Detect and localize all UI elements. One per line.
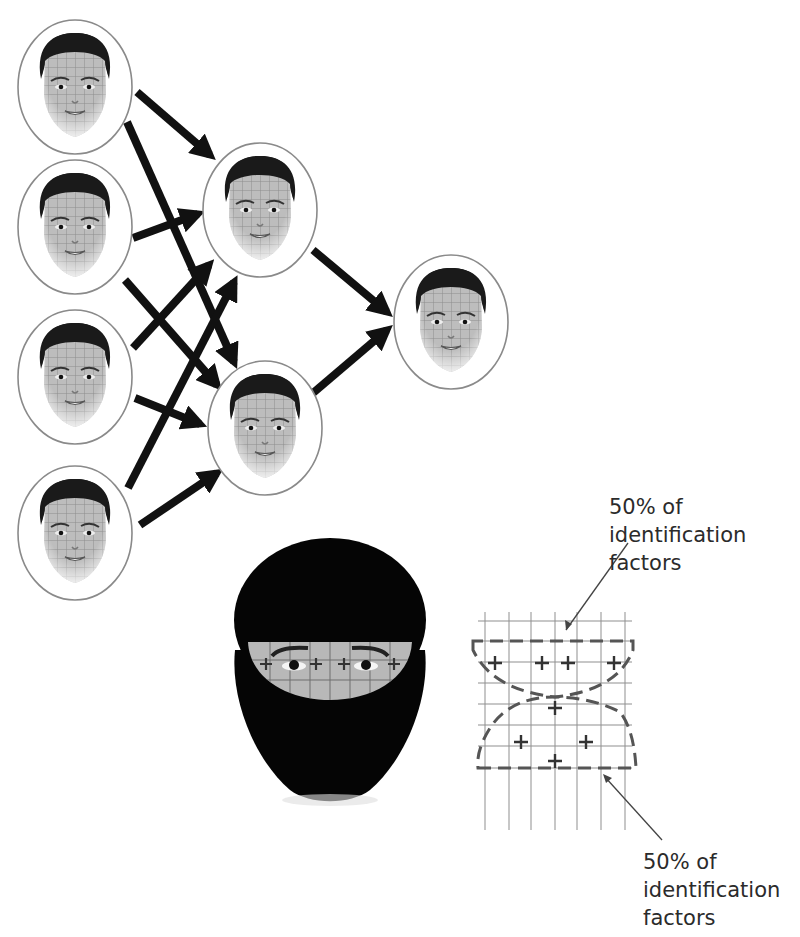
arrow-in1-to-h1 [137, 92, 210, 155]
annotation-bottom-line1: 50% of [643, 848, 780, 876]
face-node-h2 [208, 361, 322, 495]
face-node-in2 [18, 160, 132, 294]
arrow-in4-to-h2 [140, 473, 217, 525]
annotation-top: 50% of identification factors [609, 493, 746, 577]
annotation-bottom: 50% of identification factors [643, 848, 780, 932]
annotation-bottom-line3: factors [643, 904, 780, 932]
face-node-in4 [18, 466, 132, 600]
arrow-h2-to-out1 [313, 330, 387, 393]
face-node-h1 [203, 143, 317, 277]
masked-face [234, 538, 426, 806]
face-node-in3 [18, 310, 132, 444]
annotation-top-line1: 50% of [609, 493, 746, 521]
annotation-top-line3: factors [609, 549, 746, 577]
diagram-canvas: 50% of identification factors 50% of ide… [0, 0, 800, 937]
identification-factor-grid [473, 543, 662, 840]
annotation-top-line2: identification [609, 521, 746, 549]
face-node-in1 [18, 20, 132, 154]
face-node-out1 [394, 255, 508, 389]
annotation-bottom-line2: identification [643, 876, 780, 904]
diagram-svg [0, 0, 800, 937]
network-nodes [18, 20, 508, 600]
arrow-h1-to-out1 [313, 250, 387, 312]
